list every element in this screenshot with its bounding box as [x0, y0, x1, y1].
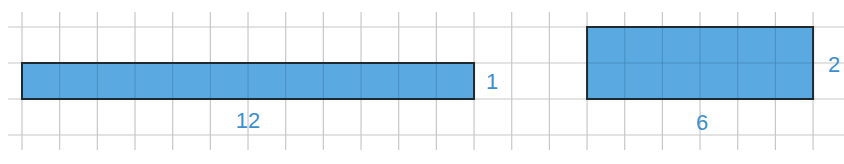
rect1-width-label: 12: [236, 108, 260, 133]
rect-6x2: [587, 27, 813, 99]
rect2-height-label: 2: [828, 52, 840, 77]
rect1-height-label: 1: [486, 69, 498, 94]
rect-12x1: [22, 63, 474, 99]
grid-diagram: 12 1 6 2: [0, 0, 844, 164]
rectangles: [22, 27, 813, 99]
rect2-width-label: 6: [696, 110, 708, 135]
